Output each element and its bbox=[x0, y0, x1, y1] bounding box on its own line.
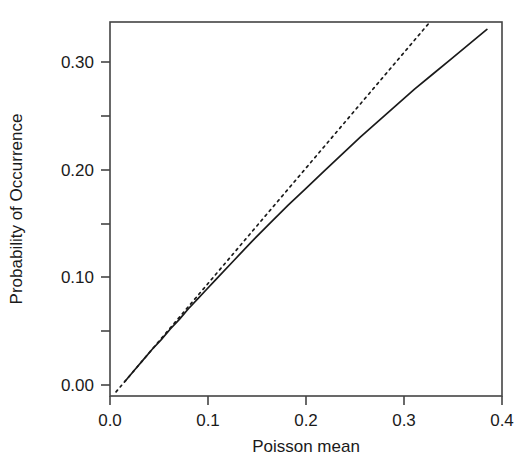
series-line-0 bbox=[125, 29, 487, 381]
x-tick-label-0: 0.0 bbox=[98, 411, 122, 430]
plot-frame bbox=[110, 22, 502, 396]
y-tick-label-3: 0.30 bbox=[61, 53, 94, 72]
data-series-layer bbox=[116, 17, 487, 392]
y-tick-label-2: 0.20 bbox=[61, 161, 94, 180]
x-tick-label-4: 0.4 bbox=[490, 411, 514, 430]
y-axis-minor-ticks bbox=[101, 116, 110, 331]
x-tick-label-2: 0.2 bbox=[294, 411, 318, 430]
chart-canvas: 0.0 0.1 0.2 0.3 0.4 0.00 0.10 0.20 0.30 … bbox=[0, 0, 530, 464]
x-tick-label-3: 0.3 bbox=[392, 411, 416, 430]
poisson-probability-figure: 0.0 0.1 0.2 0.3 0.4 0.00 0.10 0.20 0.30 … bbox=[0, 0, 530, 464]
x-axis-title: Poisson mean bbox=[252, 437, 360, 456]
y-axis-title: Probability of Occurrence bbox=[7, 114, 26, 305]
y-tick-label-0: 0.00 bbox=[61, 376, 94, 395]
y-tick-label-1: 0.10 bbox=[61, 268, 94, 287]
x-axis-ticks bbox=[110, 396, 502, 405]
x-tick-label-1: 0.1 bbox=[196, 411, 220, 430]
